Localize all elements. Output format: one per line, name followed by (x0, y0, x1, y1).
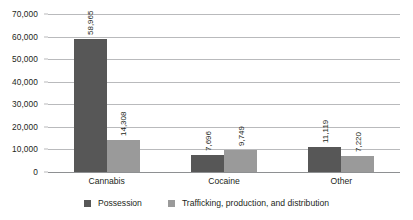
y-axis-tick-label: 30,000 (12, 99, 38, 109)
legend-label: Trafficking, production, and distributio… (182, 198, 329, 208)
bar: 58,965 (74, 39, 107, 172)
legend-item: Trafficking, production, and distributio… (168, 198, 329, 208)
bar: 7,696 (191, 155, 224, 172)
legend-swatch-icon (84, 200, 91, 207)
chart-legend: PossessionTrafficking, production, and d… (0, 198, 413, 208)
bar: 11,119 (308, 147, 341, 172)
bar-group: 58,96514,308 (74, 14, 140, 172)
x-axis-category-labels: CannabisCocaineOther (48, 176, 400, 190)
bar: 9,749 (224, 150, 257, 172)
y-axis-tick-label: 40,000 (12, 77, 38, 87)
bar-group: 11,1197,220 (308, 14, 374, 172)
bar-groups: 58,96514,3087,6969,74911,1197,220 (48, 14, 400, 172)
y-axis: 010,00020,00030,00040,00050,00060,00070,… (0, 14, 44, 172)
bar: 14,308 (107, 140, 140, 172)
legend-label: Possession (98, 198, 142, 208)
bar-chart: 010,00020,00030,00040,00050,00060,00070,… (0, 0, 413, 220)
y-axis-tick-label: 0 (33, 167, 38, 177)
x-axis-category-label: Cocaine (208, 176, 240, 186)
y-axis-tick-label: 60,000 (12, 32, 38, 42)
legend-item: Possession (84, 198, 142, 208)
y-axis-tick-label: 70,000 (12, 9, 38, 19)
y-axis-tick-label: 20,000 (12, 122, 38, 132)
y-axis-tick-label: 10,000 (12, 144, 38, 154)
y-axis-tick-label: 50,000 (12, 54, 38, 64)
bar-group: 7,6969,749 (191, 14, 257, 172)
x-axis-category-label: Cannabis (89, 176, 125, 186)
x-axis-category-label: Other (331, 176, 353, 186)
legend-swatch-icon (168, 200, 175, 207)
axis-baseline (48, 172, 400, 173)
bar: 7,220 (341, 156, 374, 172)
